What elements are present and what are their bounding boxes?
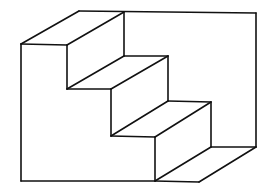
- staircase-diagram: [0, 0, 267, 194]
- staircase-line-drawing: [0, 0, 267, 194]
- step2-front-diagonal: [111, 56, 168, 89]
- top-back-edge: [79, 11, 256, 13]
- step2-tread-diagonal: [67, 56, 124, 89]
- step3-tread-diagonal: [111, 101, 168, 136]
- floor-front: [155, 181, 199, 182]
- top-left-diagonal: [21, 11, 79, 44]
- step1-top-front: [21, 44, 67, 45]
- step3-tread-front: [111, 136, 155, 137]
- step1-top-diagonal: [67, 12, 124, 45]
- step3-front-diagonal: [155, 102, 211, 137]
- floor-diagonal: [155, 147, 211, 181]
- step3-tread-back: [168, 101, 211, 102]
- floor-front-diagonal: [199, 147, 256, 182]
